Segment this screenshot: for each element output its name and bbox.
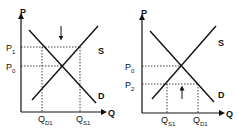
quantity-label-qd1: QD1: [38, 114, 53, 126]
demand-label: D: [98, 91, 105, 101]
price-label-p2: P2: [125, 80, 135, 92]
right-panel-price-ceiling: P Q S D P0 P2 QS1 QD1: [125, 8, 233, 127]
supply-label: S: [98, 46, 104, 56]
left-panel-price-floor: P Q S D P1 P0 QD1 QS1: [6, 7, 115, 126]
supply-label: S: [218, 38, 224, 48]
x-axis-label: Q: [226, 109, 233, 119]
quantity-label-qd1: QD1: [193, 115, 208, 127]
x-axis-label: Q: [108, 108, 115, 118]
price-label-p0: P0: [6, 62, 16, 74]
demand-label: D: [218, 90, 225, 100]
y-axis-label: P: [141, 8, 147, 18]
price-label-p0: P0: [125, 62, 135, 74]
supply-curve: [152, 26, 216, 99]
y-axis-label: P: [20, 7, 26, 17]
price-label-p1: P1: [6, 43, 16, 55]
quantity-label-qs1: QS1: [76, 114, 91, 126]
quantity-label-qs1: QS1: [161, 115, 176, 127]
supply-demand-diagrams: P Q S D P1 P0 QD1 QS1 P Q S D P0 P2 QS1 …: [0, 0, 237, 135]
